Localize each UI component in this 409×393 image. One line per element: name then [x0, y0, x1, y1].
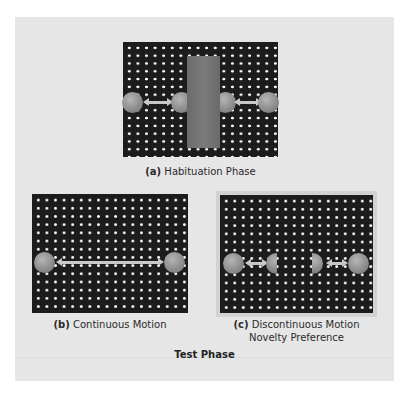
caption-label: Habituation Phase [164, 166, 255, 177]
ball-right [258, 92, 279, 113]
ball-right [164, 252, 185, 273]
caption-habituation: (a) Habituation Phase [123, 165, 278, 178]
motion-arrow [60, 261, 160, 264]
continuous-board [32, 194, 188, 313]
caption-tag: (c) [233, 319, 248, 330]
caption-tag: (a) [145, 166, 161, 177]
ball-right [348, 253, 369, 274]
caption-continuous: (b) Continuous Motion [32, 318, 188, 331]
caption-label: Discontinuous Motion [252, 319, 360, 330]
motion-arrow [147, 101, 169, 104]
caption-tag: (b) [53, 319, 69, 330]
motion-arrow [249, 262, 264, 265]
occluder-screen [187, 56, 220, 148]
test-phase-label: Test Phase [15, 349, 394, 360]
ball-left [122, 92, 143, 113]
discontinuous-board [220, 195, 373, 313]
ball-left [34, 252, 55, 273]
caption-discontinuous: (c) Discontinuous Motion Novelty Prefere… [216, 318, 377, 344]
caption-sublabel: Novelty Preference [249, 332, 344, 343]
caption-label: Continuous Motion [73, 319, 167, 330]
motion-arrow [330, 262, 344, 265]
motion-arrow [238, 101, 258, 104]
ball-left [223, 253, 244, 274]
